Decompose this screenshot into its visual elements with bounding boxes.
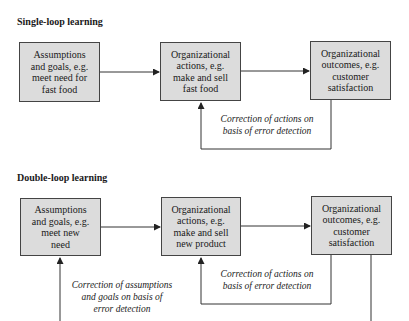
double-outcomes-box: Organizational outcomes, e.g. customer s… [311,196,392,255]
single-outcomes-label: Organizational outcomes, e.g. customer s… [321,48,380,94]
double-outer-loop-note: Correction of assumptions and goals on b… [62,279,182,315]
single-loop-title: Single-loop learning [17,16,103,27]
double-actions-label: Organizational actions, e.g. make and se… [171,204,230,250]
single-assumptions-label: Assumptions and goals, e.g. meet need fo… [31,49,89,95]
single-outcomes-box: Organizational outcomes, e.g. customer s… [310,41,391,100]
single-actions-box: Organizational actions, e.g. make and se… [160,42,241,101]
double-assumptions-label: Assumptions and goals, e.g. meet new nee… [32,204,90,250]
double-actions-box: Organizational actions, e.g. make and se… [161,197,241,256]
double-inner-loop-note: Correction of actions on basis of error … [206,268,328,292]
single-loop-note: Correction of actions on basis of error … [206,113,328,137]
single-assumptions-box: Assumptions and goals, e.g. meet need fo… [19,42,100,102]
double-outcomes-label: Organizational outcomes, e.g. customer s… [322,203,381,249]
double-loop-title: Double-loop learning [17,172,107,183]
single-actions-label: Organizational actions, e.g. make and se… [171,49,230,95]
double-assumptions-box: Assumptions and goals, e.g. meet new nee… [20,198,101,256]
